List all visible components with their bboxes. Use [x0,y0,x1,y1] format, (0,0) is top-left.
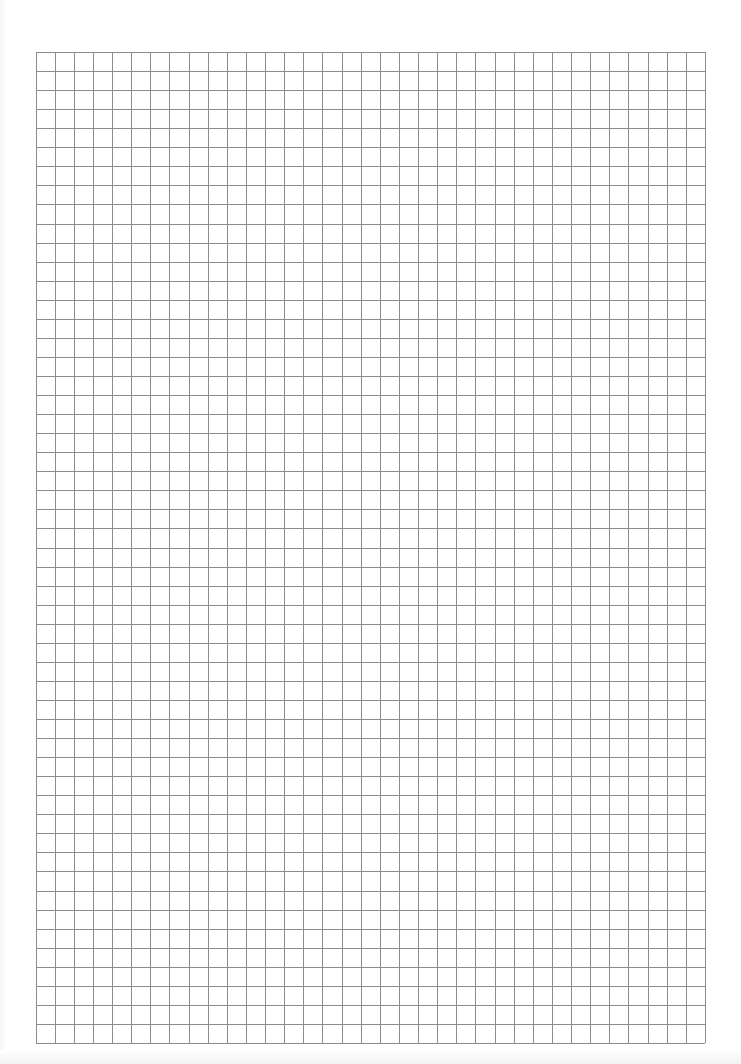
page-shadow-bottom [0,1050,741,1064]
graph-paper-page [0,0,741,1064]
grid-path [36,52,706,1044]
grid-lines [0,0,741,1064]
